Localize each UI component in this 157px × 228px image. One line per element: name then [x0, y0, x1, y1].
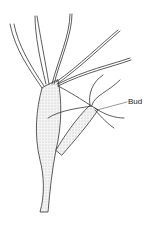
bud-label: Bud — [128, 97, 142, 106]
bud-body — [56, 105, 98, 155]
hydra-illustration — [0, 0, 157, 228]
hydra-body — [36, 80, 60, 212]
